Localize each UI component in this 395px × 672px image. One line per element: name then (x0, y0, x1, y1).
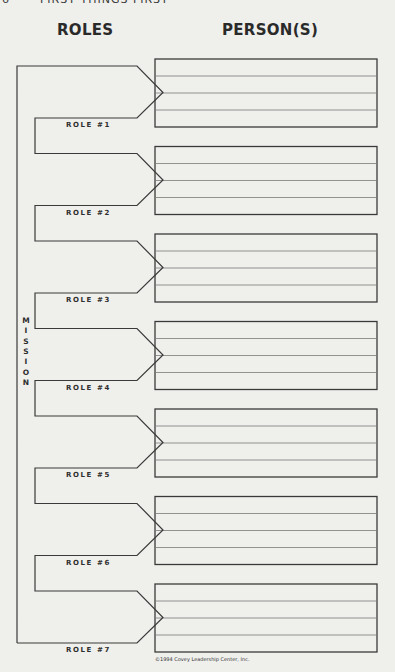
mission-letter: M (20, 316, 32, 325)
person-entry-line[interactable] (165, 234, 375, 251)
person-entry-line[interactable] (165, 198, 375, 215)
mission-letter: N (20, 378, 32, 387)
person-entry-line[interactable] (165, 409, 375, 426)
person-entry-line[interactable] (165, 618, 375, 635)
person-entry-line[interactable] (165, 531, 375, 548)
mission-letter: O (20, 368, 32, 377)
person-entry-line[interactable] (165, 285, 375, 302)
mission-letter: S (20, 347, 32, 356)
person-entry-line[interactable] (165, 59, 375, 76)
person-entry-line[interactable] (165, 93, 375, 110)
person-entry-line[interactable] (165, 443, 375, 460)
person-entry-line[interactable] (165, 339, 375, 356)
person-box-role-6 (165, 497, 375, 565)
copyright-footer: ©1994 Covey Leadership Center, Inc. (155, 656, 250, 662)
person-entry-line[interactable] (165, 251, 375, 268)
person-entry-line[interactable] (165, 584, 375, 601)
role-label: ROLE #3 (66, 296, 111, 304)
role-label: ROLE #1 (66, 121, 111, 129)
person-entry-line[interactable] (165, 147, 375, 164)
person-entry-line[interactable] (165, 356, 375, 373)
person-entry-line[interactable] (165, 268, 375, 285)
person-box-role-3 (165, 234, 375, 302)
person-entry-line[interactable] (165, 460, 375, 477)
person-box-role-4 (165, 322, 375, 390)
person-entry-line[interactable] (165, 635, 375, 652)
person-box-role-5 (165, 409, 375, 477)
role-label: ROLE #2 (66, 209, 111, 217)
person-entry-line[interactable] (165, 322, 375, 339)
person-box-role-2 (165, 147, 375, 215)
role-label: ROLE #4 (66, 384, 111, 392)
role-label: ROLE #7 (66, 646, 111, 654)
person-entry-line[interactable] (165, 426, 375, 443)
mission-letter: I (20, 326, 32, 335)
person-entry-line[interactable] (165, 373, 375, 390)
person-entry-line[interactable] (165, 110, 375, 127)
person-entry-line[interactable] (165, 164, 375, 181)
person-box-role-7 (165, 584, 375, 652)
person-entry-line[interactable] (165, 76, 375, 93)
person-entry-line[interactable] (165, 514, 375, 531)
mission-letter: I (20, 357, 32, 366)
role-label: ROLE #6 (66, 559, 111, 567)
person-entry-line[interactable] (165, 497, 375, 514)
person-entry-line[interactable] (165, 181, 375, 198)
person-box-role-1 (165, 59, 375, 127)
person-entry-line[interactable] (165, 548, 375, 565)
person-entry-line[interactable] (165, 601, 375, 618)
role-arrows-path (17, 66, 163, 643)
role-label: ROLE #5 (66, 471, 111, 479)
mission-letter: S (20, 337, 32, 346)
